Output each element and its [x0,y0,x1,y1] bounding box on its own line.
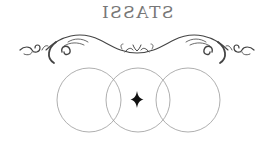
ornament [0,0,274,143]
flourish-divider-icon [20,35,254,63]
four-point-star-icon [131,91,144,108]
circle-left [57,68,121,132]
circle-right [156,68,220,132]
